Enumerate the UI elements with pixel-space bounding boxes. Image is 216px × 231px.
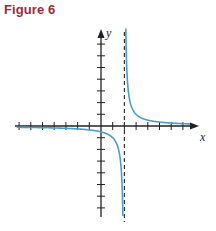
- x-axis-arrow-icon: [190, 123, 199, 130]
- curve-left-branch: [17, 127, 123, 216]
- y-axis-arrow-icon: [98, 29, 105, 38]
- hyperbola-plot: x y: [0, 0, 216, 231]
- x-axis-label: x: [199, 130, 206, 144]
- curve-right-branch: [126, 29, 190, 124]
- y-axis-label: y: [105, 26, 112, 40]
